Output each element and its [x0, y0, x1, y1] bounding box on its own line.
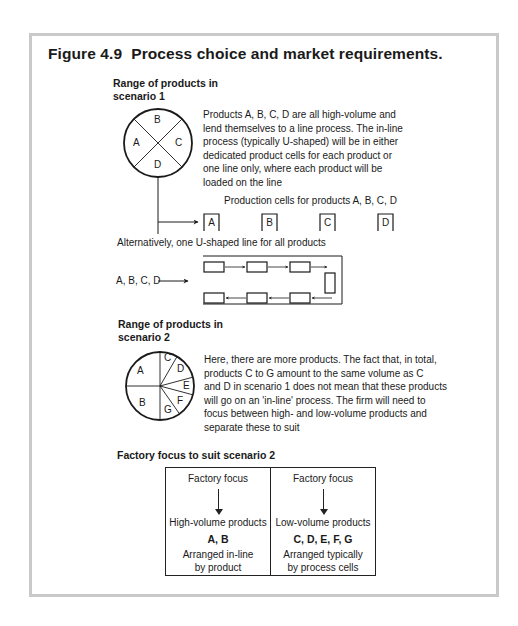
pie2-label-f: F [177, 395, 183, 406]
desc2-line: products C to G amount to the same volum… [204, 367, 447, 381]
product-list: C, D, E, F, G [271, 533, 375, 545]
volume-label: Low-volume products [271, 517, 375, 528]
desc2-line: will go on an 'in-line' process. The fir… [204, 394, 447, 408]
pie2-label-e: E [183, 380, 190, 391]
arrangement-line: Arranged in-line [166, 549, 270, 562]
arrangement-line: by process cells [271, 562, 375, 575]
u-line-input-label: A, B, C, D [116, 275, 160, 286]
down-arrow-icon [218, 489, 219, 511]
pie2-label-g: G [164, 404, 172, 415]
desc1-line: process (typically U-shaped) will be in … [203, 135, 403, 149]
column-header: Factory focus [271, 473, 375, 484]
pie2-label-c: C [164, 352, 171, 363]
down-arrow-icon [323, 489, 324, 511]
desc2-line: and D in scenario 1 does not mean that t… [204, 380, 447, 394]
desc1-line: lend themselves to a line process. The i… [203, 122, 403, 136]
pie1-label-a: A [133, 137, 140, 148]
pie1-label-b: B [154, 114, 161, 125]
factory-focus-low-volume: Factory focus Low-volume products C, D, … [270, 468, 375, 575]
scenario2-heading-line1: Range of products in [118, 318, 223, 331]
desc2-line: focus between high- and low-volume produ… [204, 407, 447, 421]
production-cells [204, 214, 393, 231]
product-list: A, B [166, 533, 270, 545]
pie2-label-a: A [137, 365, 144, 376]
pie1-label-c: C [175, 137, 182, 148]
cell-d-label: D [378, 217, 393, 228]
cell-b-label: B [262, 217, 277, 228]
pie2-label-d: D [177, 363, 184, 374]
scenario2-description: Here, there are more products. The fact … [204, 353, 447, 435]
volume-label: High-volume products [166, 517, 270, 528]
scenario2-heading: Range of products in scenario 2 [118, 318, 223, 344]
alternative-caption: Alternatively, one U-shaped line for all… [117, 237, 326, 248]
arrangement-line: by product [166, 562, 270, 575]
desc1-line: Products A, B, C, D are all high-volume … [203, 108, 403, 122]
arrangement-line: Arranged typically [271, 549, 375, 562]
pie2-label-b: B [139, 397, 146, 408]
cells-caption: Production cells for products A, B, C, D [224, 195, 397, 206]
scenario1-description: Products A, B, C, D are all high-volume … [203, 108, 403, 190]
u-shaped-line [158, 256, 342, 304]
desc1-line: one line only, where each product will b… [203, 162, 403, 176]
scenario2-heading-line2: scenario 2 [118, 331, 223, 344]
factory-focus-high-volume: Factory focus High-volume products A, B … [166, 468, 270, 575]
factory-focus-table: Factory focus High-volume products A, B … [165, 467, 376, 576]
pie1-label-d: D [154, 159, 161, 170]
desc1-line: dedicated product cells for each product… [203, 149, 403, 163]
factory-focus-heading: Factory focus to suit scenario 2 [117, 449, 275, 462]
desc1-line: loaded on the line [203, 176, 403, 190]
desc2-line: separate these to suit [204, 421, 447, 435]
arrangement-text: Arranged typically by process cells [271, 549, 375, 574]
desc2-line: Here, there are more products. The fact … [204, 353, 447, 367]
arrangement-text: Arranged in-line by product [166, 549, 270, 574]
cell-a-label: A [204, 217, 219, 228]
column-header: Factory focus [166, 473, 270, 484]
cell-c-label: C [320, 217, 335, 228]
